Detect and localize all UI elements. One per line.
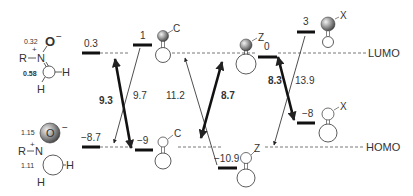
c-major-gap-value: 9.3 — [99, 95, 113, 106]
charge-minus-homo: − — [62, 122, 68, 133]
x-homo-value: −8 — [302, 108, 314, 119]
c-major-gap-arrow — [115, 59, 131, 148]
z-label-lumo: Z — [258, 32, 264, 43]
nitrone-homo-value: −8.7 — [81, 132, 101, 143]
lumo-c-orbital — [43, 66, 55, 78]
lumo-coeff-o: 0.32 — [24, 38, 38, 45]
c-lumo-value: 1 — [140, 30, 146, 41]
c-label-homo: C — [174, 128, 181, 139]
nitrone-lumo-value: 0.3 — [84, 38, 98, 49]
c-lumo-orbital: C — [156, 23, 181, 63]
charge-minus: − — [56, 31, 62, 42]
atom-n-homo: N — [35, 145, 43, 157]
x-minor-gap-value: 13.9 — [295, 75, 315, 86]
atom-h1-homo: H — [66, 159, 74, 171]
z-major-gap-value: 8.7 — [221, 90, 235, 101]
atom-h2-homo: H — [37, 176, 45, 188]
lumo-coeff-c: 0.58 — [23, 70, 37, 77]
x-label-homo: X — [340, 101, 347, 112]
homo-c-orbital — [43, 155, 63, 175]
c-minor-gap-value: 9.7 — [133, 90, 147, 101]
atom-r-homo: R — [18, 145, 26, 157]
z-minor-gap-value: 11.2 — [166, 90, 185, 101]
z-lumo-value: 0 — [264, 41, 270, 52]
z-label-homo: Z — [254, 143, 260, 154]
x-lumo-orbital: X — [321, 10, 347, 48]
z-homo-value: −10.9 — [214, 153, 240, 164]
atom-r: R — [19, 52, 27, 64]
z-homo-orbital: Z — [237, 143, 260, 187]
x-minor-gap-arrow — [274, 36, 305, 145]
lumo-label: LUMO — [368, 47, 400, 59]
x-major-gap-value: 8.3 — [268, 75, 282, 86]
x-label-lumo: X — [340, 10, 347, 21]
homo-coeff-o: 1.15 — [21, 129, 35, 136]
nitrone-homo-structure: 1.15 O − + R N 1.11 H H — [18, 122, 74, 188]
c-label-lumo: C — [173, 23, 180, 34]
atom-h1: H — [62, 66, 70, 78]
atom-n: N — [37, 52, 45, 64]
c-homo-orbital: C — [155, 128, 181, 169]
x-major-gap-arrow — [278, 57, 294, 120]
nitrone-lumo-structure: 0.32 O − + R N 0.58 H H — [19, 31, 70, 95]
homo-label: HOMO — [366, 141, 401, 153]
atom-o-homo: O — [46, 127, 55, 139]
c-homo-value: −9 — [137, 135, 149, 146]
x-homo-orbital: X — [319, 101, 347, 142]
fmo-diagram: LUMO HOMO 0.32 O − + R N 0.58 H H 1.15 O… — [0, 0, 413, 196]
homo-coeff-c: 1.11 — [21, 162, 34, 169]
z-major-gap-arrow — [201, 62, 222, 138]
z-minor-gap-arrow — [185, 58, 217, 165]
x-lumo-value: 3 — [303, 16, 309, 27]
z-lumo-orbital: Z — [236, 32, 264, 74]
atom-h2: H — [37, 83, 45, 95]
